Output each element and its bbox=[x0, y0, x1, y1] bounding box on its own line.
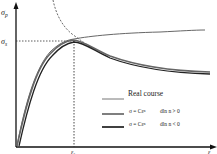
legend-cond-n-positive: dln n > 0 bbox=[160, 108, 180, 114]
x-tick-eps-s: εs bbox=[71, 149, 75, 154]
series-n-positive bbox=[17, 40, 210, 146]
chart: σp σs εs ε Real course σ = Cεⁿ dln n > 0… bbox=[0, 0, 217, 154]
legend: Real course σ = Cεⁿ dln n > 0 σ = Cεⁿ dl… bbox=[102, 89, 180, 127]
legend-label-real: Real course bbox=[128, 89, 164, 98]
y-axis-arrow-icon bbox=[14, 2, 19, 9]
x-axis-label: ε bbox=[208, 149, 211, 154]
legend-label-n-negative: σ = Cεⁿ bbox=[129, 121, 146, 127]
legend-cond-n-negative: dln n < 0 bbox=[160, 121, 180, 127]
x-axis-arrow-icon bbox=[210, 145, 217, 150]
y-axis-label: σp bbox=[1, 8, 8, 18]
legend-label-n-positive: σ = Cεⁿ bbox=[129, 108, 146, 114]
y-tick-sigma-s: σs bbox=[1, 37, 7, 47]
series-real-course bbox=[17, 30, 205, 146]
